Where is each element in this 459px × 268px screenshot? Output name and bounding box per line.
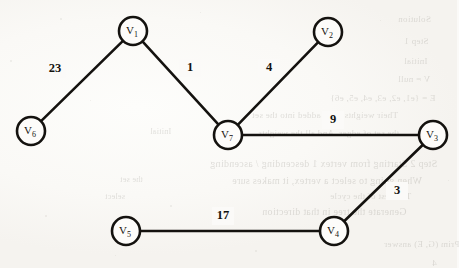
graph-node-v3: V3 bbox=[419, 121, 447, 149]
edge-weight-label-v3-v4: 3 bbox=[394, 183, 400, 197]
graph-edge-v1-v7 bbox=[142, 41, 219, 126]
node-label-subscript-v2: 2 bbox=[329, 30, 333, 39]
graph-edge-v3-v4 bbox=[343, 144, 423, 222]
node-label-subscript-v1: 1 bbox=[134, 29, 138, 38]
graph-node-v2: V2 bbox=[314, 18, 342, 46]
graph-node-v7: V7 bbox=[214, 121, 242, 149]
graph-node-v4: V4 bbox=[320, 217, 348, 245]
graph-edge-v7-v2 bbox=[237, 41, 319, 125]
edge-weight-label-v7-v2: 4 bbox=[266, 60, 273, 74]
graph-node-v5: V5 bbox=[112, 217, 140, 245]
node-label-subscript-v3: 3 bbox=[434, 133, 438, 142]
edge-weight-label-v5-v4: 17 bbox=[217, 208, 230, 222]
node-label-subscript-v5: 5 bbox=[127, 229, 131, 238]
edge-weight-label-v7-v3: 9 bbox=[330, 112, 336, 126]
edge-weight-label-v6-v1: 23 bbox=[49, 61, 62, 75]
graph-edge-v6-v1 bbox=[40, 40, 123, 122]
edge-weight-label-v1-v7: 1 bbox=[187, 60, 193, 74]
node-label-subscript-v7: 7 bbox=[229, 133, 233, 142]
graph-node-v1: V1 bbox=[119, 17, 147, 45]
graph-node-v6: V6 bbox=[17, 117, 45, 145]
node-label-subscript-v6: 6 bbox=[32, 129, 36, 138]
node-label-subscript-v4: 4 bbox=[335, 229, 339, 238]
